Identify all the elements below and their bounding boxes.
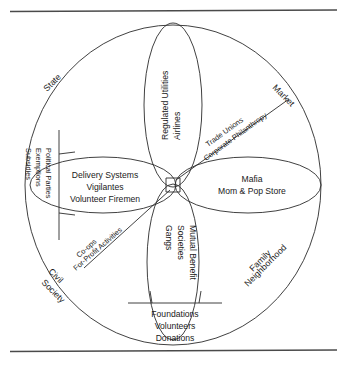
petal-top-line2: Airlines: [172, 112, 182, 140]
bottom-bracket-line3: Donations: [156, 333, 195, 343]
petal-left-line2: Vigilantes: [86, 182, 123, 192]
petal-top: [144, 23, 202, 187]
petal-bottom-line1: Mutual Benefit: [188, 225, 198, 281]
petal-top-line1: Regulated Utilities: [160, 71, 170, 140]
petal-left-line3: Volunteer Firemen: [70, 194, 140, 204]
diagram-figure: State Market Civil Society Family Neighb…: [0, 0, 347, 366]
sector-overlap-diagram: State Market Civil Society Family Neighb…: [0, 0, 347, 366]
arc-label-market: Market: [271, 82, 297, 108]
outer-circle: [25, 25, 321, 345]
petal-right-line1: Mafia: [241, 174, 262, 184]
bottom-rule: [10, 350, 337, 352]
bottom-bracket-line2: Volunteers: [155, 321, 196, 331]
left-bracket-line1: Political Parties: [44, 148, 53, 199]
bottom-bracket-tick-right: [199, 291, 201, 303]
petal-right-line2: Mom & Pop Store: [218, 186, 286, 196]
top-rule: [10, 10, 337, 12]
left-bracket-tick-top: [59, 152, 75, 154]
left-bracket-line3: Subsidies: [24, 148, 33, 180]
petal-left-line1: Delivery Systems: [72, 170, 138, 180]
petal-bottom-line2: Societies: [176, 225, 186, 260]
left-bracket-line2: Exemptions: [34, 148, 43, 187]
petal-bottom-line3: Gangs: [164, 225, 174, 250]
bottom-bracket-line1: Foundations: [151, 309, 198, 319]
arc-label-civil-society-line2: Society: [40, 277, 68, 305]
left-bracket-tick-bottom: [59, 213, 75, 215]
